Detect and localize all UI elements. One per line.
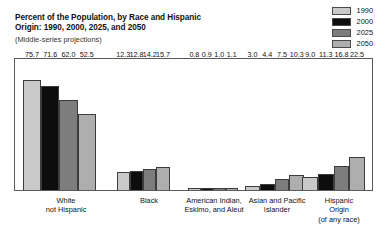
category-label-line: Islander	[242, 205, 312, 214]
bar-value-label: 0.9	[202, 51, 212, 59]
bar-rect: 14.2	[143, 169, 156, 190]
bar-2000-white: 71.6	[41, 59, 59, 190]
bar-rect: 0.9	[201, 188, 213, 190]
bar-2025-american: 1.0	[213, 59, 225, 190]
bar-value-label: 22.5	[350, 51, 364, 59]
bar-value-label: 9.0	[305, 51, 315, 59]
bar-1990-american: 0.8	[188, 59, 200, 190]
bar-value-label: 14.2	[143, 51, 157, 59]
bar-rect: 11.3	[318, 174, 334, 190]
bar-rect: 1.1	[226, 188, 238, 190]
bar-rect: 16.8	[334, 166, 350, 190]
bar-value-label: 62.0	[62, 51, 76, 59]
bar-2050-black: 15.7	[156, 59, 169, 190]
category-label-line: Origin	[304, 205, 374, 214]
legend-item-2050: 2050	[332, 39, 373, 49]
category-label-line: not Hispanic	[36, 205, 96, 214]
category-label-line: Hispanic	[304, 196, 374, 205]
bar-value-label: 4.4	[262, 51, 272, 59]
bar-value-label: 1.1	[227, 51, 237, 59]
bar-rect: 71.6	[41, 86, 59, 190]
legend-swatch-2050	[332, 40, 351, 48]
bar-value-label: 11.3	[319, 51, 332, 59]
legend-swatch-1990	[332, 7, 351, 15]
legend-label-2000: 2000	[357, 18, 373, 26]
bar-2050-white: 52.5	[78, 59, 96, 190]
chart-title-line-1: Percent of the Population, by Race and H…	[15, 13, 201, 22]
plot-area: 75.771.662.052.512.312.814.215.70.80.91.…	[14, 58, 373, 191]
bar-1990-black: 12.3	[117, 59, 130, 190]
bar-group-1: 12.312.814.215.7	[117, 59, 170, 190]
chart-subtitle: (Middle-series projections)	[15, 35, 230, 45]
legend-swatch-2025	[332, 29, 351, 37]
bar-rect: 75.7	[23, 80, 41, 190]
category-label-3: Asian and PacificIslander	[242, 196, 312, 215]
x-axis-category-labels: Whitenot HispanicBlackAmerican Indian,Es…	[14, 196, 373, 238]
bar-2025-asian: 7.5	[275, 59, 290, 190]
category-label-line: American Indian,	[179, 196, 249, 205]
bar-value-label: 12.3	[116, 51, 130, 59]
bar-value-label: 12.8	[130, 51, 144, 59]
bar-2000-hispanic: 11.3	[318, 59, 334, 190]
bar-rect: 12.3	[117, 172, 130, 190]
bar-2050-hispanic: 22.5	[349, 59, 365, 190]
category-label-4: HispanicOrigin(of any race)	[304, 196, 374, 224]
bar-rect: 12.8	[130, 171, 143, 190]
bar-rect: 1.0	[213, 188, 225, 190]
chart-title-line-2: Origin: 1990, 2000, 2025, and 2050	[15, 23, 146, 32]
category-label-line: Black	[124, 196, 174, 205]
legend-label-2050: 2050	[357, 40, 373, 48]
legend: 1990200020252050	[332, 6, 373, 49]
bar-rect: 22.5	[349, 157, 365, 190]
bar-value-label: 16.8	[334, 51, 348, 59]
bar-2000-american: 0.9	[201, 59, 213, 190]
legend-label-1990: 1990	[357, 7, 373, 15]
category-label-line: White	[36, 196, 96, 205]
category-label-1: Black	[124, 196, 174, 205]
bar-rect: 0.8	[188, 188, 200, 190]
bar-rect: 7.5	[275, 179, 290, 190]
category-label-2: American Indian,Eskimo, and Aleut	[179, 196, 249, 215]
legend-swatch-2000	[332, 18, 351, 26]
bar-2025-white: 62.0	[59, 59, 77, 190]
page-title: Percent of the Population, by Race and H…	[15, 13, 230, 34]
bar-value-label: 3.0	[248, 51, 258, 59]
bar-2000-black: 12.8	[130, 59, 143, 190]
bar-value-label: 7.5	[277, 51, 287, 59]
bar-value-label: 52.5	[80, 51, 94, 59]
bar-value-label: 71.6	[43, 51, 57, 59]
bar-1990-asian: 3.0	[245, 59, 260, 190]
bar-1990-white: 75.7	[23, 59, 41, 190]
bars-container: 75.771.662.052.512.312.814.215.70.80.91.…	[15, 59, 372, 190]
title-block: Percent of the Population, by Race and H…	[15, 13, 230, 45]
legend-label-2025: 2025	[357, 29, 373, 37]
bar-value-label: 10.3	[290, 51, 304, 59]
bar-rect: 52.5	[78, 114, 96, 190]
bar-rect: 15.7	[156, 167, 169, 190]
bar-2025-black: 14.2	[143, 59, 156, 190]
bar-2050-american: 1.1	[226, 59, 238, 190]
bar-value-label: 75.7	[25, 51, 39, 59]
bar-group-3: 3.04.47.510.3	[245, 59, 304, 190]
legend-item-2000: 2000	[332, 17, 373, 27]
bar-rect: 9.0	[302, 177, 318, 190]
bar-rect: 3.0	[245, 186, 260, 190]
category-label-line: Asian and Pacific	[242, 196, 312, 205]
bar-rect: 4.4	[260, 184, 275, 190]
bar-2025-hispanic: 16.8	[334, 59, 350, 190]
bar-group-4: 9.011.316.822.5	[302, 59, 364, 190]
legend-item-1990: 1990	[332, 6, 373, 16]
bar-group-2: 0.80.91.01.1	[188, 59, 238, 190]
bar-1990-hispanic: 9.0	[302, 59, 318, 190]
legend-item-2025: 2025	[332, 28, 373, 38]
bar-value-label: 1.0	[214, 51, 224, 59]
bar-rect: 62.0	[59, 100, 77, 190]
bar-value-label: 15.7	[156, 51, 170, 59]
bar-group-0: 75.771.662.052.5	[23, 59, 96, 190]
category-label-line: (of any race)	[304, 215, 374, 224]
bar-2000-asian: 4.4	[260, 59, 275, 190]
category-label-0: Whitenot Hispanic	[36, 196, 96, 215]
bar-value-label: 0.8	[189, 51, 199, 59]
category-label-line: Eskimo, and Aleut	[179, 205, 249, 214]
